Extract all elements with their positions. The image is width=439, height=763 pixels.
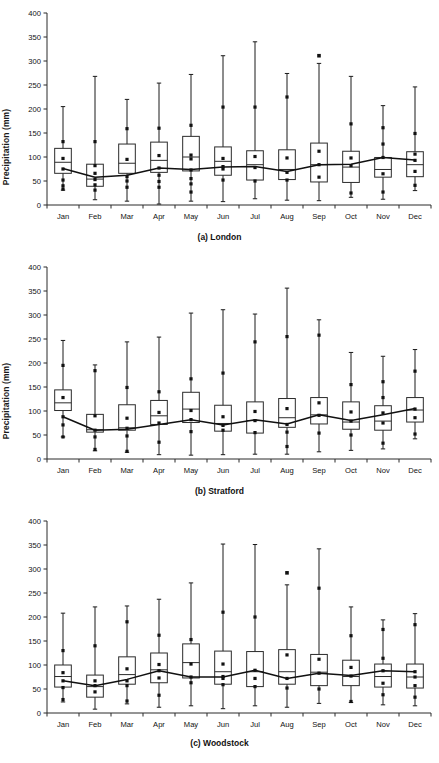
y-tick-label: 200 <box>28 105 41 114</box>
x-tick-label-jul: Jul <box>250 720 260 729</box>
x-tick-label-feb: Feb <box>88 720 101 729</box>
boxplot-group-nov <box>375 356 392 449</box>
caption-woodstock: (c) Woodstock <box>0 738 439 748</box>
boxplot-group-nov <box>375 106 392 200</box>
y-tick-label: 50 <box>33 177 41 186</box>
x-tick-label-apr: Apr <box>153 212 165 221</box>
x-tick-label-may: May <box>184 466 199 475</box>
y-tick-label: 50 <box>33 431 41 440</box>
boxplot-group-nov <box>375 620 392 705</box>
boxplot-group-jul <box>247 314 264 454</box>
x-tick-label-jun: Jun <box>217 466 229 475</box>
boxplot-group-jun <box>215 56 232 202</box>
boxplot-group-sep <box>311 54 328 201</box>
x-tick-label-jan: Jan <box>57 466 69 475</box>
x-tick-label-feb: Feb <box>88 466 101 475</box>
boxplot-group-apr <box>151 599 168 707</box>
y-axis-label-text: Precipitation (mm) <box>1 32 15 262</box>
x-tick-label-nov: Nov <box>376 466 390 475</box>
trend-line <box>63 409 415 431</box>
boxplot-group-may <box>183 583 200 706</box>
y-tick-label: 200 <box>28 613 41 622</box>
boxplot-group-may <box>183 313 200 455</box>
y-tick-label: 0 <box>37 455 41 464</box>
y-tick-label: 400 <box>28 263 41 272</box>
boxplot-group-dec <box>407 614 424 706</box>
x-tick-label-may: May <box>184 212 199 221</box>
x-tick-label-feb: Feb <box>88 212 101 221</box>
x-tick-label-aug: Aug <box>280 720 294 729</box>
y-axis-label-text: Precipitation (mm) <box>1 286 15 516</box>
y-tick-label: 150 <box>28 129 41 138</box>
x-tick-label-aug: Aug <box>280 212 294 221</box>
boxplot-group-may <box>183 74 200 201</box>
x-tick-label-oct: Oct <box>345 212 358 221</box>
x-tick-label-apr: Apr <box>153 466 165 475</box>
x-tick-label-jul: Jul <box>250 466 260 475</box>
boxplot-group-mar <box>119 342 136 453</box>
boxplot-group-jan <box>55 340 72 438</box>
x-tick-label-mar: Mar <box>120 466 134 475</box>
figure-root: Precipitation (mm) 050100150200250300350… <box>0 0 439 763</box>
y-tick-label: 400 <box>28 9 41 18</box>
y-tick-label: 100 <box>28 153 41 162</box>
y-tick-label: 400 <box>28 517 41 526</box>
boxplot-group-dec <box>407 350 424 439</box>
boxplot-group-jul <box>247 42 264 199</box>
y-tick-label: 300 <box>28 565 41 574</box>
boxplot-group-oct <box>343 352 360 450</box>
x-tick-label-dec: Dec <box>408 720 422 729</box>
panel-london: Precipitation (mm) 050100150200250300350… <box>0 0 439 254</box>
x-tick-label-aug: Aug <box>280 466 294 475</box>
boxplot-group-feb <box>87 365 104 451</box>
panel-stratford: Precipitation (mm) 050100150200250300350… <box>0 254 439 508</box>
trend-line <box>63 670 415 685</box>
boxplot-group-sep <box>311 320 328 452</box>
y-tick-label: 0 <box>37 201 41 210</box>
y-tick-label: 350 <box>28 33 41 42</box>
boxplot-group-jun <box>215 544 232 709</box>
x-tick-label-sep: Sep <box>312 212 326 221</box>
y-tick-label: 300 <box>28 57 41 66</box>
y-tick-label: 250 <box>28 589 41 598</box>
x-tick-label-may: May <box>184 720 199 729</box>
caption-stratford: (b) Stratford <box>0 486 439 496</box>
boxplot-group-aug <box>279 288 296 454</box>
y-tick-label: 0 <box>37 709 41 718</box>
y-tick-label: 100 <box>28 661 41 670</box>
x-tick-label-sep: Sep <box>312 466 326 475</box>
y-tick-label: 250 <box>28 81 41 90</box>
y-tick-label: 50 <box>33 685 41 694</box>
boxplot-group-jul <box>247 545 264 706</box>
y-tick-label: 350 <box>28 287 41 296</box>
x-tick-label-sep: Sep <box>312 720 326 729</box>
boxplot-group-aug <box>279 73 296 200</box>
trend-line <box>63 157 415 177</box>
panel-woodstock: Precipitation (mm) 050100150200250300350… <box>0 508 439 762</box>
x-tick-label-jun: Jun <box>217 720 229 729</box>
boxplot-group-mar <box>119 606 136 704</box>
boxplot-group-aug <box>279 571 296 707</box>
y-tick-label: 200 <box>28 359 41 368</box>
boxplot-chart-woodstock: 050100150200250300350400JanFebMarAprMayJ… <box>0 508 439 762</box>
y-tick-label: 150 <box>28 637 41 646</box>
boxplot-group-apr <box>151 337 168 455</box>
y-tick-label: 350 <box>28 541 41 550</box>
boxplot-group-oct <box>343 607 360 703</box>
x-tick-label-apr: Apr <box>153 720 165 729</box>
y-tick-label: 300 <box>28 311 41 320</box>
boxplot-group-dec <box>407 87 424 191</box>
boxplot-chart-stratford: 050100150200250300350400JanFebMarAprMayJ… <box>0 254 439 508</box>
x-tick-label-jan: Jan <box>57 212 69 221</box>
boxplot-group-feb <box>87 607 104 709</box>
y-tick-label: 250 <box>28 335 41 344</box>
boxplot-group-apr <box>151 83 168 204</box>
boxplot-group-mar <box>119 99 136 201</box>
x-tick-label-nov: Nov <box>376 720 390 729</box>
boxplot-group-sep <box>311 549 328 704</box>
y-tick-label: 150 <box>28 383 41 392</box>
x-tick-label-nov: Nov <box>376 212 390 221</box>
caption-london: (a) London <box>0 232 439 242</box>
x-tick-label-oct: Oct <box>345 720 358 729</box>
boxplot-group-oct <box>343 76 360 197</box>
